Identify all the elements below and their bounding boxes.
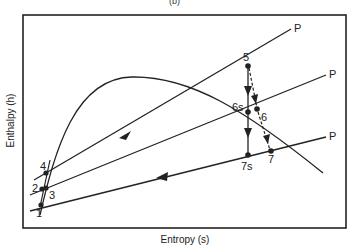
state-point-7s	[245, 152, 251, 158]
label-6: 6	[261, 111, 267, 123]
arrow-down-icon	[244, 128, 252, 138]
arrow-heating-icon	[119, 131, 131, 140]
state-point-3	[43, 185, 48, 190]
label-5: 5	[243, 51, 249, 63]
state-point-6	[254, 106, 260, 112]
label-2: 2	[32, 182, 38, 194]
label-6s: 6s	[232, 101, 244, 113]
isobar-mid	[30, 75, 326, 195]
saturation-dome	[40, 77, 323, 215]
arrow-down-icon	[244, 86, 252, 96]
isobar-label-low: P	[329, 130, 336, 142]
plot-frame	[23, 15, 346, 228]
label-4: 4	[40, 160, 46, 172]
label-1: 1	[36, 207, 42, 219]
hs-diagram: 1 2 3 4 5 6s 6 7s 7 P P P	[0, 0, 349, 248]
state-point-5	[245, 63, 251, 69]
isobar-low	[30, 137, 326, 211]
state-point-6s	[245, 109, 251, 115]
arrow-down-icon	[263, 134, 270, 144]
label-7: 7	[268, 153, 274, 165]
isobar-label-high: P	[294, 22, 301, 34]
label-7s: 7s	[241, 160, 253, 172]
label-3: 3	[49, 189, 55, 201]
isobar-label-mid: P	[329, 68, 336, 80]
